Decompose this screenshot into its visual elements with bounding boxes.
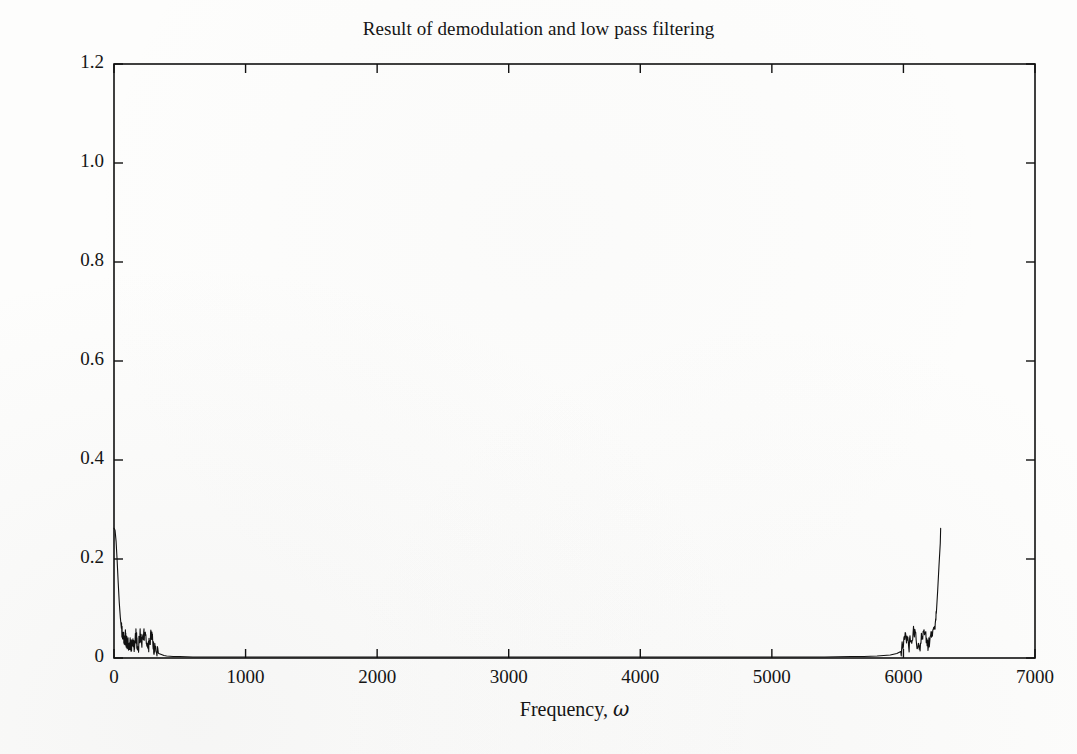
axis-ticks [114,64,1035,658]
data-series [114,528,941,657]
plot-area: Amplitude Frequency, ω 00.20.40.60.81.01… [0,0,1077,754]
chart-canvas [0,0,1077,754]
plot-frame [114,64,1035,658]
figure-page: Result of demodulation and low pass filt… [0,0,1077,754]
